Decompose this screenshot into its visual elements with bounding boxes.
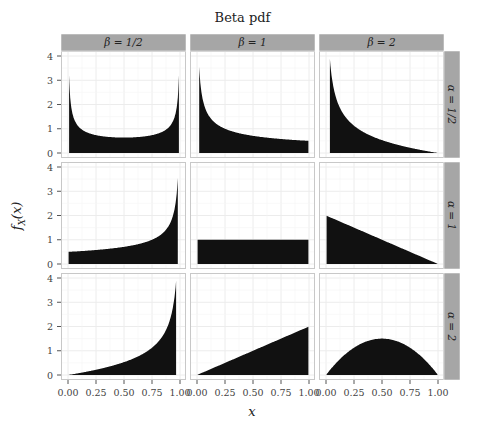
facet-plot: 0123401234012340.000.250.500.751.000.000… — [0, 0, 485, 431]
x-tick-label: 0.00 — [315, 387, 336, 398]
facet-panel — [62, 52, 186, 158]
x-tick-label: 0.25 — [343, 387, 364, 398]
y-tick-label: 3 — [47, 75, 53, 86]
x-tick-label: 0.00 — [57, 387, 78, 398]
y-tick-label: 2 — [47, 99, 53, 110]
density-area — [198, 240, 309, 264]
y-tick-label: 2 — [47, 210, 53, 221]
facet-panel — [191, 52, 315, 158]
facet-panel — [320, 274, 444, 380]
y-tick-label: 4 — [47, 273, 53, 284]
x-tick-label: 0.50 — [242, 387, 263, 398]
facet-panel — [62, 163, 186, 269]
facet-strip-label: α = 1/2 — [446, 85, 458, 125]
facet-panel — [62, 274, 186, 380]
y-tick-label: 1 — [47, 345, 53, 356]
y-tick-label: 4 — [47, 51, 53, 62]
y-tick-label: 2 — [47, 321, 53, 332]
x-tick-label: 1.00 — [427, 387, 448, 398]
y-tick-label: 3 — [47, 297, 53, 308]
facet-strip-label: α = 2 — [446, 312, 458, 342]
facet-panel — [191, 163, 315, 269]
y-tick-label: 0 — [47, 370, 53, 381]
y-tick-label: 0 — [47, 259, 53, 270]
x-tick-label: 0.75 — [270, 387, 291, 398]
facet-strip-label: β = 1/2 — [103, 36, 143, 48]
facet-panel — [320, 163, 444, 269]
facet-panel — [320, 52, 444, 158]
x-tick-label: 0.25 — [214, 387, 235, 398]
x-tick-label: 0.75 — [399, 387, 420, 398]
y-tick-label: 1 — [47, 123, 53, 134]
x-tick-label: 0.25 — [85, 387, 106, 398]
facet-strip-label: α = 1 — [446, 201, 458, 230]
facet-panel — [191, 274, 315, 380]
facet-strip-label: β = 1 — [237, 36, 266, 48]
x-tick-label: 0.50 — [113, 387, 134, 398]
x-tick-label: 0.50 — [371, 387, 392, 398]
facet-strip-label: β = 2 — [366, 36, 396, 48]
y-tick-label: 1 — [47, 234, 53, 245]
y-tick-label: 4 — [47, 162, 53, 173]
y-tick-label: 0 — [47, 148, 53, 159]
x-tick-label: 0.75 — [141, 387, 162, 398]
y-tick-label: 3 — [47, 186, 53, 197]
x-tick-label: 0.00 — [186, 387, 207, 398]
